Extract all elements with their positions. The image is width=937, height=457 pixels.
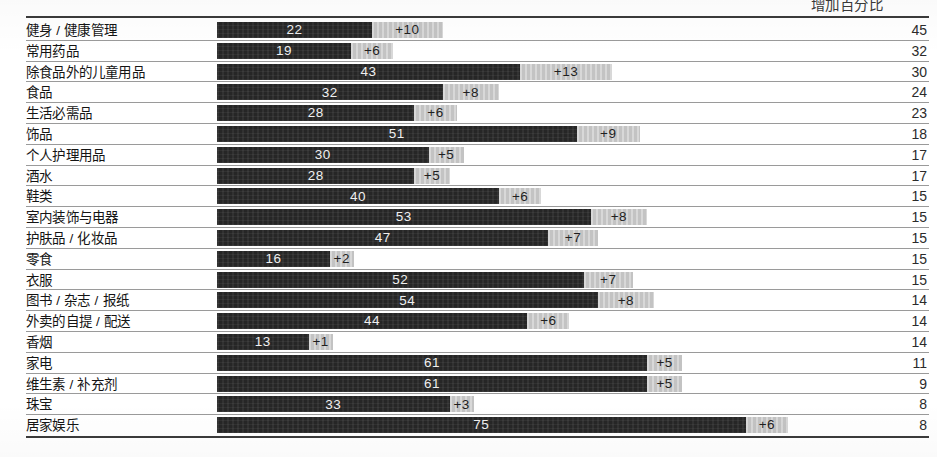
bar-segment-base: 32 bbox=[217, 84, 443, 100]
bar-base-value: 44 bbox=[364, 314, 380, 328]
bar-base-value: 52 bbox=[392, 273, 408, 287]
bar-base-value: 40 bbox=[350, 190, 366, 204]
row-category-label: 家电 bbox=[26, 354, 52, 373]
chart-row: 个人护理用品30+517 bbox=[0, 145, 937, 166]
bar-segment-growth: +1 bbox=[309, 334, 333, 350]
chart-row: 除食品外的儿童用品43+1330 bbox=[0, 62, 937, 83]
stacked-bar: 44+6 bbox=[217, 313, 877, 329]
stacked-bar: 30+5 bbox=[217, 147, 877, 163]
stacked-bar: 13+1 bbox=[217, 334, 877, 350]
row-category-label: 饰品 bbox=[26, 125, 52, 144]
bar-growth-value: +6 bbox=[424, 106, 446, 120]
chart-row: 护肤品 / 化妆品47+715 bbox=[0, 228, 937, 249]
row-total-value: 14 bbox=[901, 291, 927, 310]
stacked-bar: 51+9 bbox=[217, 126, 877, 142]
bar-growth-value: +5 bbox=[653, 356, 675, 370]
row-total-value: 32 bbox=[901, 42, 927, 61]
bar-segment-growth: +5 bbox=[429, 147, 464, 163]
stacked-bar: 28+6 bbox=[217, 105, 877, 121]
bar-base-value: 53 bbox=[396, 210, 412, 224]
stacked-bar: 54+8 bbox=[217, 292, 877, 308]
bar-track: 13+1 bbox=[217, 334, 877, 350]
stacked-bar: 47+7 bbox=[217, 230, 877, 246]
bar-track: 28+5 bbox=[217, 168, 877, 184]
chart-row: 生活必需品28+623 bbox=[0, 103, 937, 124]
bar-segment-growth: +8 bbox=[598, 292, 654, 308]
chart-row: 衣服52+715 bbox=[0, 270, 937, 291]
stacked-bar: 33+3 bbox=[217, 396, 877, 412]
bar-base-value: 16 bbox=[265, 252, 281, 266]
bar-track: 22+10 bbox=[217, 22, 877, 38]
bar-segment-growth: +3 bbox=[450, 396, 474, 412]
bar-segment-base: 22 bbox=[217, 22, 372, 38]
stacked-bar: 22+10 bbox=[217, 22, 877, 38]
row-category-label: 室内装饰与电器 bbox=[26, 208, 118, 227]
bar-segment-base: 47 bbox=[217, 230, 548, 246]
bar-segment-growth: +6 bbox=[527, 313, 569, 329]
bar-segment-growth: +6 bbox=[414, 105, 456, 121]
stacked-bar: 75+6 bbox=[217, 417, 877, 433]
bar-track: 16+2 bbox=[217, 251, 877, 267]
bar-segment-base: 28 bbox=[217, 168, 414, 184]
stacked-bar: 40+6 bbox=[217, 188, 877, 204]
row-category-label: 衣服 bbox=[26, 271, 52, 290]
chart-row: 居家娱乐75+68 bbox=[0, 415, 937, 436]
bar-segment-growth: +6 bbox=[499, 188, 541, 204]
chart-rows: 健身 / 健康管理22+1045常用药品19+632除食品外的儿童用品43+13… bbox=[0, 20, 937, 436]
bar-growth-value: +1 bbox=[309, 335, 331, 349]
row-category-label: 外卖的自提 / 配送 bbox=[26, 312, 130, 331]
row-total-value: 15 bbox=[901, 271, 927, 290]
bar-track: 33+3 bbox=[217, 396, 877, 412]
bar-track: 51+9 bbox=[217, 126, 877, 142]
bar-growth-value: +5 bbox=[435, 148, 457, 162]
bar-base-value: 19 bbox=[276, 44, 292, 58]
bar-base-value: 47 bbox=[375, 231, 391, 245]
bar-track: 61+5 bbox=[217, 376, 877, 392]
top-rule bbox=[26, 16, 929, 18]
chart-row: 零食16+215 bbox=[0, 249, 937, 270]
row-total-value: 14 bbox=[901, 312, 927, 331]
bar-base-value: 32 bbox=[322, 86, 338, 100]
bar-growth-value: +6 bbox=[756, 418, 778, 432]
bar-growth-value: +8 bbox=[460, 86, 482, 100]
bar-track: 75+6 bbox=[217, 417, 877, 433]
bar-segment-growth: +10 bbox=[372, 22, 443, 38]
bar-growth-value: +10 bbox=[392, 23, 422, 37]
bar-growth-value: +6 bbox=[361, 44, 383, 58]
stacked-bar: 52+7 bbox=[217, 272, 877, 288]
row-total-value: 24 bbox=[901, 83, 927, 102]
stacked-bar: 61+5 bbox=[217, 376, 877, 392]
bar-segment-base: 40 bbox=[217, 188, 499, 204]
row-category-label: 香烟 bbox=[26, 333, 52, 352]
bar-growth-value: +5 bbox=[653, 377, 675, 391]
bar-base-value: 75 bbox=[473, 418, 489, 432]
row-category-label: 食品 bbox=[26, 83, 52, 102]
bottom-rule bbox=[26, 436, 929, 438]
bar-track: 53+8 bbox=[217, 209, 877, 225]
row-total-value: 23 bbox=[901, 104, 927, 123]
row-category-label: 维生素 / 补充剂 bbox=[26, 375, 117, 394]
chart-row: 外卖的自提 / 配送44+614 bbox=[0, 311, 937, 332]
bar-segment-base: 52 bbox=[217, 272, 584, 288]
bar-track: 54+8 bbox=[217, 292, 877, 308]
row-total-value: 8 bbox=[901, 395, 927, 414]
row-total-value: 17 bbox=[901, 146, 927, 165]
row-category-label: 鞋类 bbox=[26, 187, 52, 206]
bar-base-value: 54 bbox=[399, 294, 415, 308]
bar-segment-base: 43 bbox=[217, 64, 520, 80]
bar-segment-growth: +6 bbox=[746, 417, 788, 433]
bar-base-value: 43 bbox=[361, 65, 377, 79]
bar-growth-value: +5 bbox=[421, 169, 443, 183]
row-total-value: 45 bbox=[901, 21, 927, 40]
bar-growth-value: +9 bbox=[597, 127, 619, 141]
row-category-label: 图书 / 杂志 / 报纸 bbox=[26, 291, 129, 310]
bar-segment-base: 61 bbox=[217, 376, 647, 392]
bar-segment-base: 53 bbox=[217, 209, 591, 225]
row-category-label: 居家娱乐 bbox=[26, 416, 79, 435]
row-total-value: 15 bbox=[901, 229, 927, 248]
row-category-label: 个人护理用品 bbox=[26, 146, 105, 165]
bar-base-value: 28 bbox=[308, 106, 324, 120]
bar-track: 47+7 bbox=[217, 230, 877, 246]
bar-segment-growth: +5 bbox=[414, 168, 449, 184]
stacked-bar: 43+13 bbox=[217, 64, 877, 80]
